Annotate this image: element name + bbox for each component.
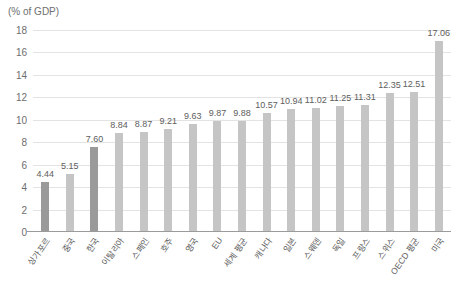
x-axis-tick-label: 호주	[159, 236, 175, 254]
bar[interactable]	[287, 109, 295, 232]
bar-slot: 8.84	[107, 30, 132, 232]
bar-value-label: 12.35	[378, 81, 401, 90]
y-axis-tick-label: 14	[5, 71, 27, 81]
x-axis-tick-label: EU	[211, 236, 225, 251]
y-axis-tick-label: 10	[5, 116, 27, 126]
x-axis-label-slot: 호주	[156, 234, 181, 284]
bar[interactable]	[41, 182, 49, 232]
bar[interactable]	[66, 174, 74, 232]
x-axis-label-slot: OECD 평균	[402, 234, 427, 284]
x-axis-tick-label: 캐나다	[253, 236, 274, 261]
x-axis-tick-label: 스페인	[130, 236, 151, 261]
bar-value-label: 12.51	[403, 80, 426, 89]
bar-slot: 5.15	[58, 30, 83, 232]
x-axis-label-slot: 독일	[328, 234, 353, 284]
bar-slot: 8.87	[131, 30, 156, 232]
bar[interactable]	[361, 105, 369, 232]
x-axis-label-slot: 일본	[279, 234, 304, 284]
bar[interactable]	[189, 124, 197, 232]
bar-slot: 17.06	[426, 30, 451, 232]
bar[interactable]	[263, 113, 271, 232]
x-axis-tick-label: 싱가포르	[27, 236, 52, 267]
x-axis-label-slot: 세계 평균	[230, 234, 255, 284]
bar-value-label: 5.15	[61, 162, 79, 171]
y-axis-tick-label: 8	[5, 138, 27, 148]
bar-value-label: 11.25	[329, 94, 351, 103]
bar-slot: 9.63	[181, 30, 206, 232]
bar[interactable]	[115, 133, 123, 232]
x-axis-label-slot: 캐나다	[254, 234, 279, 284]
bar[interactable]	[410, 92, 418, 232]
plot-area: 024681012141618 4.445.157.608.848.879.21…	[33, 30, 451, 232]
y-axis-tick-label: 0	[5, 228, 27, 238]
bar-slot: 11.25	[328, 30, 353, 232]
x-axis-label-slot: 스페인	[131, 234, 156, 284]
bar-value-label: 17.06	[427, 29, 450, 38]
y-axis-tick-label: 18	[5, 26, 27, 36]
bar[interactable]	[312, 108, 320, 232]
y-axis-unit-label: (% of GDP)	[8, 6, 59, 17]
bar-slot: 10.94	[279, 30, 304, 232]
bar-slot: 11.02	[303, 30, 328, 232]
bar-slot: 9.88	[230, 30, 255, 232]
bar-value-label: 10.57	[255, 101, 278, 110]
bar-slot: 10.57	[254, 30, 279, 232]
x-axis-label-slot: 미국	[426, 234, 451, 284]
x-axis-tick-label: 미국	[430, 236, 446, 254]
y-axis-tick-label: 12	[5, 93, 27, 103]
bar-value-label: 11.31	[354, 93, 376, 102]
bar-slot: 12.35	[377, 30, 402, 232]
bar-value-label: 9.87	[209, 109, 227, 118]
x-axis-tick-label: 독일	[331, 236, 347, 254]
x-axis-tick-label: 영국	[184, 236, 200, 254]
bar-slot: 7.60	[82, 30, 107, 232]
bar-chart: (% of GDP) 024681012141618 4.445.157.608…	[0, 0, 458, 284]
y-axis-tick-label: 2	[5, 206, 27, 216]
x-axis-tick-label: 일본	[282, 236, 298, 254]
x-axis-tick-label: 스웨덴	[302, 236, 323, 261]
x-axis-labels: 싱가포르중국한국이탈리아스페인호주영국EU세계 평균캐나다일본스웨덴독일프랑스스…	[33, 234, 451, 284]
bar-slot: 9.21	[156, 30, 181, 232]
x-axis-tick-label: 중국	[61, 236, 77, 254]
bar[interactable]	[164, 129, 172, 232]
x-axis-label-slot: 영국	[181, 234, 206, 284]
x-axis-line	[27, 231, 451, 232]
bar-slot: 11.31	[353, 30, 378, 232]
bar-value-label: 9.63	[184, 112, 202, 121]
y-axis-tick-label: 4	[5, 183, 27, 193]
bar[interactable]	[435, 41, 443, 232]
bar-value-label: 4.44	[37, 170, 55, 179]
bar-slot: 9.87	[205, 30, 230, 232]
bar-value-label: 7.60	[86, 135, 104, 144]
bar-slot: 12.51	[402, 30, 427, 232]
x-axis-label-slot: 스웨덴	[303, 234, 328, 284]
bars-layer: 4.445.157.608.848.879.219.639.879.8810.5…	[33, 30, 451, 232]
bar-value-label: 11.02	[305, 96, 327, 105]
x-axis-tick-label: 프랑스	[351, 236, 372, 261]
x-axis-label-slot: 이탈리아	[107, 234, 132, 284]
bar-value-label: 8.87	[135, 120, 153, 129]
bar-slot: 4.44	[33, 30, 58, 232]
bar[interactable]	[213, 121, 221, 232]
bar-value-label: 8.84	[110, 121, 128, 130]
y-axis-tick-label: 16	[5, 48, 27, 58]
bar[interactable]	[90, 147, 98, 232]
bar-value-label: 9.21	[159, 117, 177, 126]
x-axis-label-slot: 싱가포르	[33, 234, 58, 284]
bar[interactable]	[140, 132, 148, 232]
bar-value-label: 10.94	[280, 97, 303, 106]
bar-value-label: 9.88	[233, 109, 251, 118]
x-axis-tick-label: 스위스	[376, 236, 397, 261]
x-axis-tick-label: 한국	[85, 236, 101, 254]
bar[interactable]	[386, 93, 394, 232]
y-axis-tick-label: 6	[5, 161, 27, 171]
x-axis-label-slot: 중국	[58, 234, 83, 284]
x-axis-label-slot: 프랑스	[353, 234, 378, 284]
bar[interactable]	[336, 106, 344, 232]
bar[interactable]	[238, 121, 246, 232]
